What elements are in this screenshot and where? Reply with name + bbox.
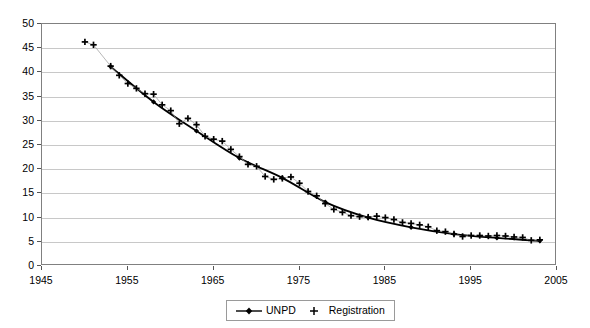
y-tick-label: 45 — [8, 42, 34, 53]
y-tick-label: 5 — [8, 236, 34, 247]
data-point-registration — [82, 39, 88, 45]
chart-legend: UNPD Registration — [226, 300, 395, 321]
data-layer — [42, 24, 557, 266]
y-tick-label: 40 — [8, 66, 34, 77]
data-point-registration — [537, 237, 543, 243]
x-tick-label: 1995 — [448, 275, 492, 286]
legend-label-registration: Registration — [329, 305, 385, 316]
series-unpd — [108, 64, 542, 243]
y-tick-label: 10 — [8, 212, 34, 223]
x-tick-mark — [41, 266, 42, 270]
legend-label-unpd: UNPD — [266, 305, 296, 316]
plus-icon — [303, 306, 325, 316]
data-point-registration — [374, 213, 380, 219]
x-tick-mark — [384, 266, 385, 270]
data-point-registration — [288, 174, 294, 180]
data-point-registration — [193, 121, 199, 127]
line-diamond-icon — [236, 306, 262, 316]
data-point-registration — [408, 220, 414, 226]
y-tick-label: 35 — [8, 91, 34, 102]
y-tick-label: 20 — [8, 163, 34, 174]
data-point-registration — [365, 214, 371, 220]
x-tick-mark — [556, 266, 557, 270]
x-tick-label: 1955 — [105, 275, 149, 286]
data-point-registration — [477, 232, 483, 238]
data-point-registration — [391, 216, 397, 222]
data-point-registration — [425, 224, 431, 230]
data-point-registration — [271, 176, 277, 182]
y-tick-label: 15 — [8, 187, 34, 198]
chart-screenshot: { "chart_data": { "type": "line", "title… — [0, 0, 590, 328]
y-tick-label: 0 — [8, 260, 34, 271]
x-tick-label: 1965 — [191, 275, 235, 286]
data-point-registration — [451, 231, 457, 237]
x-tick-label: 1985 — [362, 275, 406, 286]
plot-area — [41, 23, 556, 265]
data-point-registration — [468, 232, 474, 238]
x-tick-label: 1975 — [277, 275, 321, 286]
x-tick-mark — [213, 266, 214, 270]
data-point-registration — [382, 214, 388, 220]
series-registration — [82, 39, 543, 244]
y-tick-label: 50 — [8, 18, 34, 29]
x-tick-label: 1945 — [19, 275, 63, 286]
x-tick-label: 2005 — [534, 275, 578, 286]
y-tick-label: 30 — [8, 115, 34, 126]
data-point-registration — [528, 237, 534, 243]
y-tick-label: 25 — [8, 139, 34, 150]
data-point-registration — [416, 222, 422, 228]
legend-item-registration: Registration — [303, 305, 385, 316]
x-tick-mark — [299, 266, 300, 270]
x-tick-mark — [470, 266, 471, 270]
x-tick-mark — [127, 266, 128, 270]
legend-item-unpd: UNPD — [236, 305, 296, 316]
data-point-registration — [185, 115, 191, 121]
